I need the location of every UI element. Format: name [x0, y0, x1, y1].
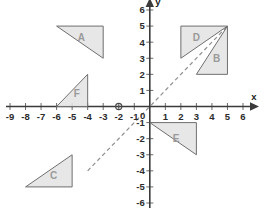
y-tick-label: 6 [140, 4, 145, 15]
x-axis-arrowhead [250, 102, 259, 110]
coordinate-plane-diagram: ABCDEF -9-8-7-6-5-4-3-2-1123456654321-1-… [0, 0, 270, 215]
triangle-label-f: F [74, 88, 80, 99]
y-axis-label: y [155, 0, 161, 7]
x-tick-label: -8 [21, 111, 29, 122]
y-tick-label: -2 [136, 133, 144, 144]
x-tick-label: 3 [194, 111, 199, 122]
x-tick-label: -3 [99, 111, 107, 122]
triangle-label-c: C [50, 170, 57, 181]
x-tick-label: -7 [37, 111, 45, 122]
x-tick-label: 2 [178, 111, 183, 122]
origin-label: 0 [140, 110, 145, 121]
x-tick-label: 4 [209, 111, 215, 122]
triangle-label-d: D [193, 32, 200, 43]
y-tick-label: 2 [140, 69, 145, 80]
circle-marker-dot [118, 105, 120, 107]
x-tick-label: -9 [6, 111, 14, 122]
y-tick-label: -6 [136, 197, 144, 208]
x-tick-label: 1 [163, 111, 169, 122]
y-tick-label: 4 [140, 37, 146, 48]
y-tick-label: -4 [136, 165, 145, 176]
triangle-label-b: B [213, 53, 220, 64]
y-tick-label: 5 [140, 20, 146, 31]
y-tick-label: -5 [136, 181, 145, 192]
y-tick-label: 3 [140, 53, 145, 64]
triangle-f [57, 74, 88, 106]
line-y-equals-x [88, 26, 228, 171]
x-tick-label: -6 [52, 111, 60, 122]
y-tick-label: 1 [140, 85, 146, 96]
x-tick-label: 5 [225, 111, 231, 122]
x-tick-label: -5 [68, 111, 77, 122]
x-axis-label: x [251, 91, 257, 102]
triangle-c [26, 155, 73, 187]
y-axis-arrowhead [146, 0, 154, 7]
plot-surface: ABCDEF -9-8-7-6-5-4-3-2-1123456654321-1-… [0, 0, 270, 215]
x-tick-label: -2 [115, 111, 123, 122]
y-tick-label: -3 [136, 149, 144, 160]
x-tick-label: -4 [83, 111, 92, 122]
triangle-label-a: A [78, 32, 85, 43]
x-tick-label: 6 [240, 111, 245, 122]
triangle-label-e: E [173, 133, 180, 144]
